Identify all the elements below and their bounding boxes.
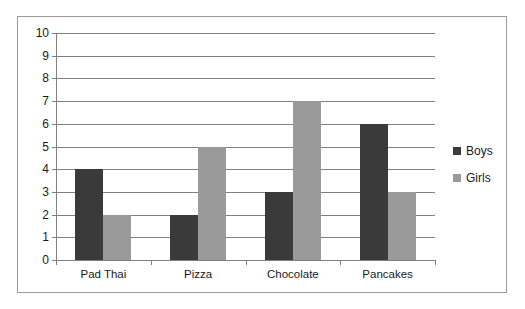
legend-swatch-boys <box>453 147 461 155</box>
x-axis-tick-mark <box>435 260 436 265</box>
legend-label: Girls <box>466 172 491 184</box>
y-axis-tick-label: 9 <box>42 50 49 62</box>
gridline <box>56 56 435 57</box>
y-axis-tick-mark <box>52 237 56 238</box>
y-axis-tick-label: 7 <box>42 95 49 107</box>
x-axis-tick-mark <box>56 260 57 265</box>
y-axis-tick-label: 1 <box>42 231 49 243</box>
y-axis-tick-label: 10 <box>36 27 49 39</box>
category-label-pizza: Pizza <box>184 269 212 281</box>
y-axis-tick-label: 8 <box>42 72 49 84</box>
y-axis-tick-mark <box>52 33 56 34</box>
gridline <box>56 101 435 102</box>
x-axis-tick-mark <box>151 260 152 265</box>
chart-frame: 012345678910 Pad ThaiPizzaChocolatePanca… <box>17 16 507 293</box>
y-axis-tick-label: 2 <box>42 209 49 221</box>
category-label-pad-thai: Pad Thai <box>80 269 126 281</box>
legend-item-girls[interactable]: Girls <box>453 164 493 191</box>
bar-girls-pancakes <box>388 192 416 260</box>
y-axis-tick-mark <box>52 215 56 216</box>
y-axis-tick-mark <box>52 169 56 170</box>
x-axis-tick-mark <box>246 260 247 265</box>
y-axis-tick-mark <box>52 192 56 193</box>
bar-boys-pancakes <box>360 124 388 260</box>
bar-girls-pizza <box>198 147 226 261</box>
gridline <box>56 78 435 79</box>
bar-boys-chocolate <box>265 192 293 260</box>
legend-swatch-girls <box>453 174 461 182</box>
gridline <box>56 33 435 34</box>
x-axis-tick-mark <box>340 260 341 265</box>
legend-item-boys[interactable]: Boys <box>453 137 493 164</box>
y-axis-tick-label: 6 <box>42 118 49 130</box>
category-label-chocolate: Chocolate <box>267 269 319 281</box>
bar-girls-pad-thai <box>103 215 131 260</box>
legend-label: Boys <box>466 145 493 157</box>
y-axis-tick-mark <box>52 56 56 57</box>
y-axis-tick-mark <box>52 124 56 125</box>
y-axis-tick-label: 4 <box>42 163 49 175</box>
plot-area: 012345678910 Pad ThaiPizzaChocolatePanca… <box>56 33 435 260</box>
y-axis-tick-mark <box>52 78 56 79</box>
y-axis-tick-label: 3 <box>42 186 49 198</box>
category-label-pancakes: Pancakes <box>362 269 413 281</box>
y-axis-tick-mark <box>52 147 56 148</box>
y-axis-tick-label: 5 <box>42 141 49 153</box>
bar-boys-pad-thai <box>75 169 103 260</box>
chart-legend: BoysGirls <box>453 137 493 191</box>
y-axis-tick-mark <box>52 101 56 102</box>
bar-boys-pizza <box>170 215 198 260</box>
y-axis-tick-label: 0 <box>42 254 49 266</box>
bar-girls-chocolate <box>293 101 321 260</box>
